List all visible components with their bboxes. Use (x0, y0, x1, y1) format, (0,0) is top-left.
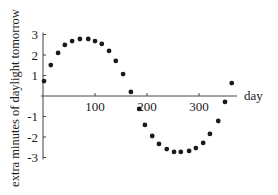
data-point (223, 100, 228, 105)
data-point (42, 79, 47, 84)
data-point (150, 134, 155, 139)
y-tick-label: -1 (27, 109, 38, 124)
data-point (178, 150, 183, 155)
data-point (208, 132, 213, 137)
data-point (48, 63, 53, 68)
x-axis-label: day (244, 88, 263, 103)
data-point (193, 146, 198, 151)
data-point (143, 123, 148, 128)
y-tick-label: 3 (32, 27, 39, 42)
data-point (78, 37, 83, 42)
y-tick-label: -3 (27, 150, 38, 165)
y-tick-label: 2 (32, 48, 39, 63)
data-points (42, 37, 235, 155)
y-tick-label: -2 (27, 130, 38, 145)
data-point (164, 147, 169, 152)
x-tick-label: 100 (85, 99, 105, 114)
data-point (99, 42, 104, 47)
x-tick-label: 300 (189, 99, 209, 114)
data-point (62, 43, 67, 48)
data-point (216, 119, 221, 124)
data-point (93, 39, 98, 44)
data-point (201, 141, 206, 146)
data-point (137, 107, 142, 112)
data-point (107, 49, 112, 54)
data-point (113, 59, 118, 64)
data-point (128, 90, 133, 95)
data-point (121, 72, 126, 77)
data-point (229, 81, 234, 86)
data-point (187, 149, 192, 154)
data-point (56, 51, 61, 56)
data-point (157, 142, 162, 147)
data-point (172, 150, 177, 155)
x-tick-label: 200 (137, 99, 157, 114)
y-tick-label: 1 (32, 68, 39, 83)
axes: 321-1-2-3100200300day (27, 27, 263, 165)
scatter-plot: 321-1-2-3100200300day (0, 0, 278, 195)
data-point (70, 39, 75, 44)
data-point (86, 37, 91, 42)
